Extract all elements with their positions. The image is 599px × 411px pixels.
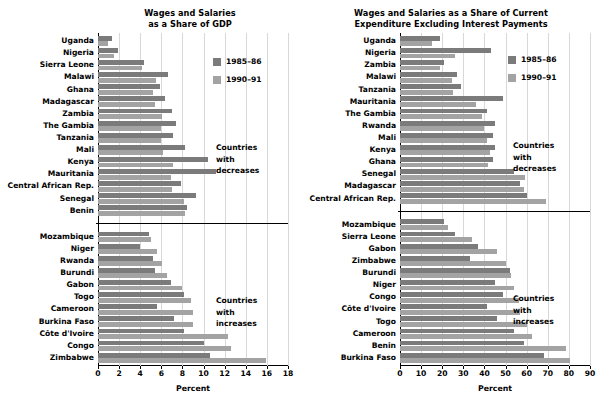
x-tick-mark — [288, 366, 289, 369]
category-label: Central African Rep. — [0, 181, 94, 190]
category-label: Zimbabwe — [0, 353, 94, 362]
category-label: Burundi — [0, 268, 94, 277]
bar-row — [400, 59, 590, 71]
category-label: Togo — [196, 317, 396, 326]
bar-1990-91 — [400, 90, 453, 95]
category-label: Senegal — [196, 169, 396, 178]
x-tick-label: 12 — [219, 369, 230, 378]
bar-1985-86 — [98, 316, 174, 321]
annotation-right-dec-line3: decreases — [513, 163, 556, 175]
bar-1985-86 — [98, 329, 184, 334]
bar-1990-91 — [98, 310, 193, 315]
legend-label-1990-91-right: 1990–91 — [521, 73, 557, 82]
category-label: The Gambia — [0, 121, 94, 130]
bar-1990-91 — [400, 237, 472, 242]
bar-row — [400, 340, 590, 352]
bar-1985-86 — [98, 157, 208, 162]
annotation-right-dec-line2: with — [513, 152, 556, 164]
bar-row — [400, 352, 590, 364]
bar-1985-86 — [98, 205, 187, 210]
x-tick-label: 8 — [180, 369, 185, 378]
bar-1985-86 — [400, 181, 520, 186]
legend-label-1985-86-right: 1985–86 — [521, 55, 557, 64]
bar-1990-91 — [400, 298, 519, 303]
x-tick-mark — [119, 366, 120, 369]
bar-1990-91 — [98, 66, 142, 71]
category-label: Mali — [196, 133, 396, 142]
bar-1990-91 — [98, 237, 151, 242]
category-label: Gabon — [196, 244, 396, 253]
plot-area-right — [400, 33, 590, 366]
category-label: Madagascar — [196, 181, 396, 190]
bar-1985-86 — [98, 181, 181, 186]
bar-1990-91 — [98, 298, 191, 303]
x-axis-title-left: Percent — [98, 384, 288, 393]
bar-1990-91 — [400, 187, 524, 192]
bar-1985-86 — [400, 329, 514, 334]
bar-row — [400, 96, 590, 108]
bar-1990-91 — [98, 175, 171, 180]
bar-row — [400, 120, 590, 132]
bar-row — [400, 279, 590, 291]
category-label: Zambia — [0, 109, 94, 118]
bar-1990-91 — [400, 322, 527, 327]
category-label: Mozambique — [0, 232, 94, 241]
bar-1990-91 — [400, 175, 525, 180]
bar-1990-91 — [400, 249, 497, 254]
bar-1990-91 — [98, 78, 156, 83]
bar-1990-91 — [400, 273, 511, 278]
category-label: Sierra Leone — [0, 60, 94, 69]
bar-1985-86 — [98, 48, 118, 53]
bar-1985-86 — [98, 232, 149, 237]
bar-1985-86 — [400, 36, 440, 41]
bar-row — [400, 219, 590, 231]
category-label: Mauritania — [0, 169, 94, 178]
category-label: Tanzania — [196, 85, 396, 94]
x-tick-mark — [267, 366, 268, 369]
x-tick-mark — [442, 366, 443, 369]
bar-1985-86 — [400, 121, 495, 126]
annotation-right-increases: Countries with increases — [513, 293, 554, 328]
x-tick-mark — [527, 366, 528, 369]
x-tick-label: 6 — [159, 369, 164, 378]
bar-1990-91 — [98, 114, 162, 119]
x-tick-label: 70 — [542, 369, 553, 378]
annotation-right-inc-line1: Countries — [513, 293, 554, 305]
bar-row — [400, 193, 590, 205]
bar-row — [400, 71, 590, 83]
category-label: Rwanda — [0, 256, 94, 265]
bar-1990-91 — [400, 163, 488, 168]
bar-1985-86 — [98, 121, 176, 126]
bar-1990-91 — [400, 54, 455, 59]
category-label: Kenya — [196, 145, 396, 154]
x-tick-mark — [182, 366, 183, 369]
category-label: Mali — [0, 145, 94, 154]
x-tick-mark — [506, 366, 507, 369]
category-label: Sierra Leone — [196, 232, 396, 241]
x-tick-mark — [548, 366, 549, 369]
bar-row — [400, 243, 590, 255]
x-tick-mark — [421, 366, 422, 369]
bar-1990-91 — [98, 261, 162, 266]
category-label: Burkina Faso — [196, 353, 396, 362]
chart-title-right: Wages and Salaries as a Share of Current… — [309, 8, 593, 30]
x-tick-mark — [484, 366, 485, 369]
category-label: Congo — [0, 341, 94, 350]
x-tick-label: 10 — [416, 369, 427, 378]
bar-1985-86 — [400, 84, 461, 89]
bar-1985-86 — [400, 96, 503, 101]
annotation-right-inc-line3: increases — [513, 316, 554, 328]
x-tick-label: 90 — [585, 369, 596, 378]
bar-row — [400, 144, 590, 156]
bar-1985-86 — [400, 316, 497, 321]
x-tick-label: 60 — [521, 369, 532, 378]
category-label: Niger — [0, 244, 94, 253]
annotation-right-decreases: Countries with decreases — [513, 140, 556, 175]
bar-1985-86 — [98, 268, 155, 273]
category-label: Malawi — [0, 72, 94, 81]
x-tick-mark — [225, 366, 226, 369]
figure-root: Wages and Salaries as a Share of GDP 198… — [0, 0, 599, 411]
bar-1990-91 — [400, 126, 484, 131]
bar-1990-91 — [98, 41, 108, 46]
x-tick-label: 10 — [198, 369, 209, 378]
